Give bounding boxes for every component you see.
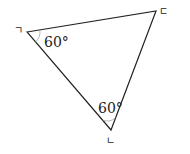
vertex-label-top-right: ㄷ [159, 6, 168, 17]
vertex-label-bottom: ㄴ [106, 135, 115, 146]
vertex-label-left: ㄱ [14, 25, 23, 36]
angle-arc-bottom [103, 118, 116, 121]
triangle-diagram: 60° 60° ㄱ ㄴ ㄷ [0, 0, 190, 154]
triangle-shape [27, 11, 156, 130]
angle-arc-left [35, 30, 40, 42]
angle-label-left: 60° [44, 34, 69, 50]
angle-label-bottom: 60° [98, 100, 123, 116]
